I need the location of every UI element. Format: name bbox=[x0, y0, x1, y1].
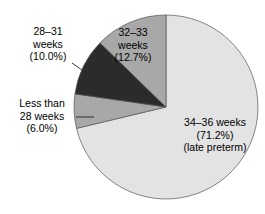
slice-label-34-36-weeks: 34–36 weeks (71.2%) (late preterm) bbox=[168, 116, 262, 154]
slice-label-28-31-line3: (10.0%) bbox=[12, 50, 84, 63]
slice-label-28-31-line2: weeks bbox=[12, 38, 84, 51]
slice-label-28-31-line1: 28–31 bbox=[12, 25, 84, 38]
slice-label-32-33-weeks: 32–33 weeks (12.7%) bbox=[104, 26, 162, 64]
pie-chart: 32–33 weeks (12.7%) 34–36 weeks (71.2%) … bbox=[0, 0, 265, 214]
slice-label-32-33-line2: weeks bbox=[104, 39, 162, 52]
slice-label-32-33-line1: 32–33 bbox=[104, 26, 162, 39]
slice-label-less-than-28-line1: Less than bbox=[2, 97, 82, 110]
leader-line-28-31 bbox=[72, 63, 82, 70]
pie-slices-group bbox=[74, 15, 258, 199]
slice-label-less-than-28-line3: (6.0%) bbox=[2, 122, 82, 135]
slice-label-less-than-28-weeks: Less than 28 weeks (6.0%) bbox=[2, 97, 82, 135]
slice-label-28-31-weeks: 28–31 weeks (10.0%) bbox=[12, 25, 84, 63]
slice-label-less-than-28-line2: 28 weeks bbox=[2, 110, 82, 123]
slice-label-32-33-line3: (12.7%) bbox=[104, 51, 162, 64]
slice-label-34-36-line3: (late preterm) bbox=[168, 141, 262, 154]
slice-label-34-36-line1: 34–36 weeks bbox=[168, 116, 262, 129]
slice-label-34-36-line2: (71.2%) bbox=[168, 129, 262, 142]
